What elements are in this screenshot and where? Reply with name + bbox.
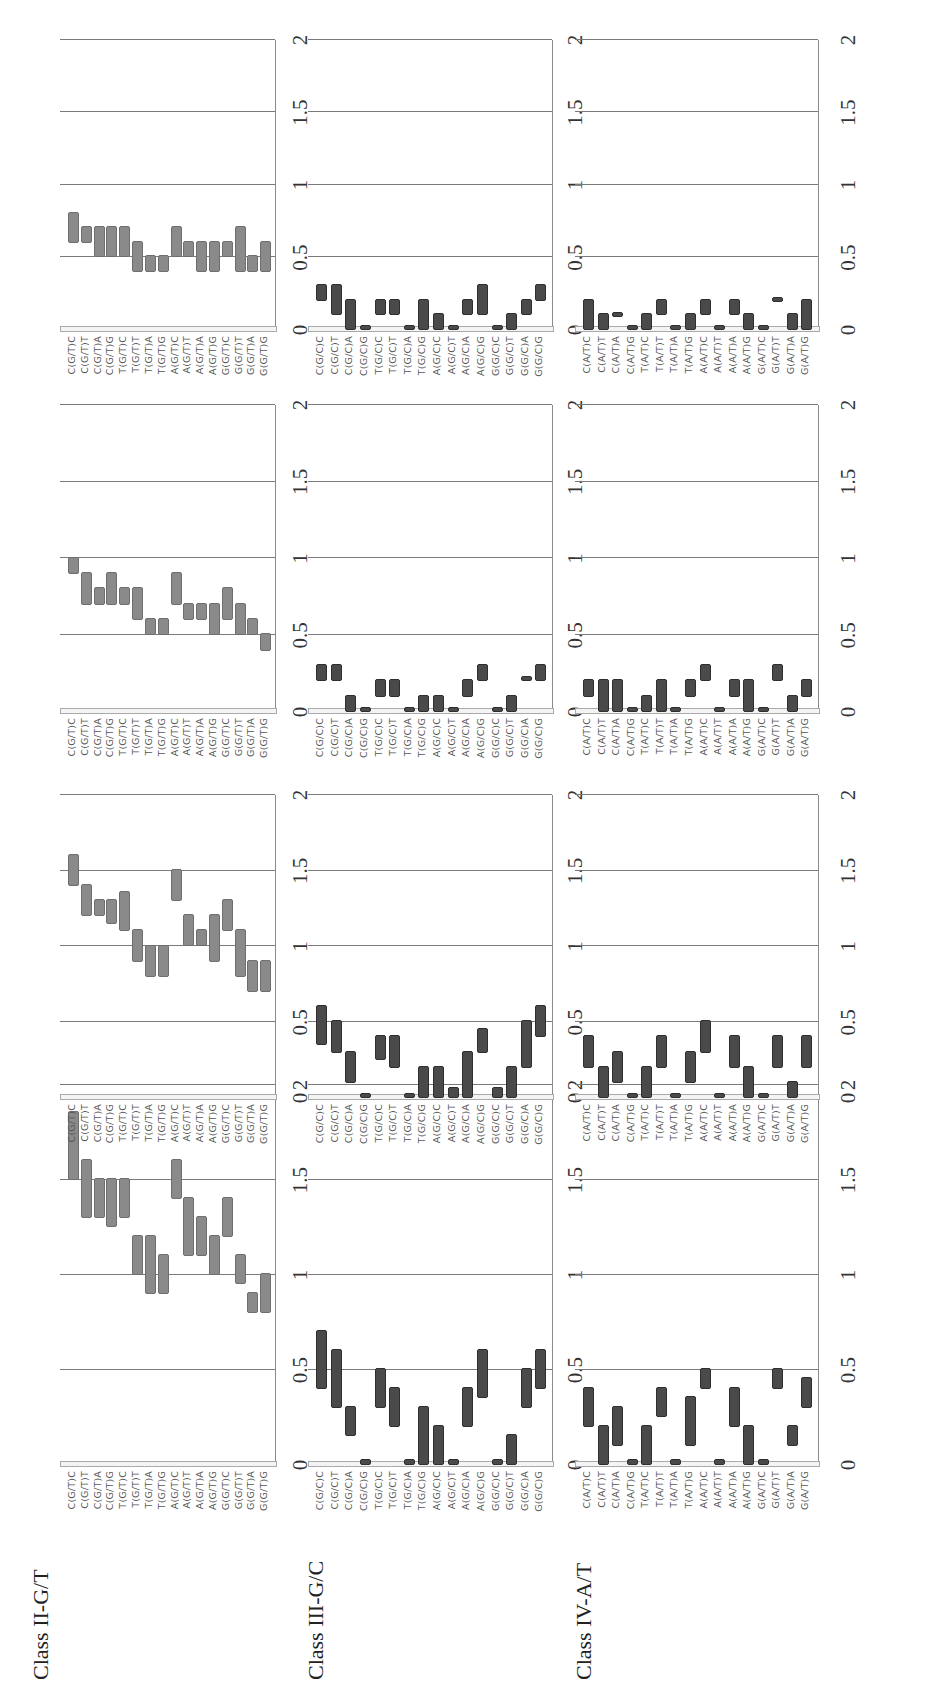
gridline bbox=[575, 794, 818, 795]
gridline bbox=[575, 1084, 818, 1085]
range-bar bbox=[158, 256, 169, 273]
range-bar bbox=[743, 1425, 754, 1465]
category-label: A(G/C)C bbox=[431, 1104, 442, 1160]
category-label: T(G/T)A bbox=[143, 1471, 154, 1527]
range-bar bbox=[612, 679, 623, 712]
category-label: A(G/T)C bbox=[169, 1471, 180, 1527]
range-bar bbox=[627, 325, 638, 330]
category-label: T(A/T)A bbox=[668, 718, 679, 774]
range-bar bbox=[316, 285, 327, 302]
category-label: C(A/T)C bbox=[581, 336, 592, 392]
category-label: T(A/T)C bbox=[639, 718, 650, 774]
range-bar bbox=[119, 587, 130, 604]
category-label: A(A/T)A bbox=[727, 336, 738, 392]
category-label: G(G/T)A bbox=[245, 336, 256, 392]
category-label: C(G/T)C bbox=[66, 718, 77, 774]
range-bar bbox=[535, 1349, 546, 1389]
range-bar bbox=[247, 618, 258, 635]
category-label: G(G/T)T bbox=[233, 336, 244, 392]
category-label: C(G/C)C bbox=[314, 336, 325, 392]
category-label: T(G/T)T bbox=[130, 1104, 141, 1160]
plot-frame bbox=[552, 405, 553, 712]
range-bar bbox=[772, 297, 783, 302]
gridline bbox=[308, 1369, 552, 1370]
category-label: G(A/T)T bbox=[770, 1104, 781, 1160]
range-bar bbox=[68, 854, 79, 886]
range-bar bbox=[260, 1273, 271, 1313]
range-bar bbox=[670, 1093, 681, 1098]
range-bar bbox=[389, 299, 400, 316]
axis-tick-label: 0.5 bbox=[288, 1357, 313, 1383]
axis-tick-label: 2 bbox=[836, 790, 861, 801]
range-bar bbox=[743, 314, 754, 331]
range-bar bbox=[132, 929, 143, 961]
figure-stage: Class II-G/T00.511.52C(G/T)CC(G/T)TC(G/T… bbox=[0, 0, 933, 1687]
rotated-figure: Class II-G/T00.511.52C(G/T)CC(G/T)TC(G/T… bbox=[0, 0, 933, 1687]
category-label: T(G/T)A bbox=[143, 336, 154, 392]
range-bar bbox=[119, 227, 130, 258]
range-bar bbox=[685, 1397, 696, 1447]
gridline bbox=[60, 1179, 275, 1180]
range-bar bbox=[119, 891, 130, 931]
category-label: T(G/T)G bbox=[156, 1471, 167, 1527]
gridline bbox=[575, 257, 818, 258]
category-label: C(G/C)C bbox=[314, 1471, 325, 1527]
category-label: C(G/T)A bbox=[92, 1104, 103, 1160]
range-bar bbox=[627, 707, 638, 712]
gridline bbox=[308, 1021, 552, 1022]
axis-tick-label: 0.5 bbox=[288, 1009, 313, 1035]
plot-frame bbox=[275, 40, 276, 330]
range-bar bbox=[158, 618, 169, 635]
category-label: G(A/T)A bbox=[785, 336, 796, 392]
gridline bbox=[60, 39, 275, 40]
category-label: A(G/T)G bbox=[207, 336, 218, 392]
range-bar bbox=[235, 1254, 246, 1285]
range-bar bbox=[106, 899, 117, 924]
category-label: C(G/C)T bbox=[329, 1471, 340, 1527]
category-label: A(G/T)G bbox=[207, 718, 218, 774]
category-label: A(G/C)A bbox=[460, 718, 471, 774]
gridline bbox=[575, 946, 818, 947]
axis-tick-label: 2 bbox=[288, 790, 313, 801]
range-bar bbox=[535, 1005, 546, 1037]
category-label: T(G/T)C bbox=[117, 718, 128, 774]
range-bar bbox=[183, 1197, 194, 1256]
category-label: A(G/C)A bbox=[460, 1104, 471, 1160]
range-bar bbox=[685, 1051, 696, 1083]
category-label: C(G/T)C bbox=[66, 1104, 77, 1160]
category-label: C(G/C)G bbox=[358, 336, 369, 392]
category-label: T(G/T)T bbox=[130, 718, 141, 774]
axis-tick-label: 0 bbox=[836, 1460, 861, 1471]
range-bar bbox=[316, 664, 327, 681]
category-label: C(G/T)A bbox=[92, 336, 103, 392]
category-label: C(G/T)G bbox=[104, 1471, 115, 1527]
axis-tick-label: 2 bbox=[288, 35, 313, 46]
category-label: T(G/C)C bbox=[373, 1104, 384, 1160]
range-bar bbox=[583, 679, 594, 696]
category-label: T(G/C)C bbox=[373, 1471, 384, 1527]
axis-tick-label: 1 bbox=[288, 553, 313, 564]
axis-tick-label: 0.5 bbox=[563, 622, 588, 648]
axis-tick-label: 2 bbox=[563, 790, 588, 801]
axis-tick-label: 0 bbox=[836, 1093, 861, 1104]
range-bar bbox=[758, 325, 769, 330]
range-bar bbox=[477, 285, 488, 316]
axis-tick-label: 2 bbox=[563, 400, 588, 411]
category-label: A(A/T)G bbox=[741, 718, 752, 774]
range-bar bbox=[714, 325, 725, 330]
range-bar bbox=[360, 707, 371, 712]
range-bar bbox=[375, 679, 386, 696]
category-label: G(G/C)G bbox=[533, 718, 544, 774]
category-label: A(A/T)G bbox=[741, 1471, 752, 1527]
category-label: C(G/C)G bbox=[358, 1104, 369, 1160]
axis-tick-label: 0.5 bbox=[836, 622, 861, 648]
category-label: T(A/T)A bbox=[668, 336, 679, 392]
category-label: A(G/C)T bbox=[446, 718, 457, 774]
category-label: G(G/T)C bbox=[220, 1104, 231, 1160]
gridline bbox=[60, 404, 275, 405]
range-bar bbox=[375, 1035, 386, 1060]
category-label: T(G/C)G bbox=[416, 1471, 427, 1527]
category-label: G(G/T)G bbox=[258, 1471, 269, 1527]
category-label: C(G/T)A bbox=[92, 1471, 103, 1527]
range-bar bbox=[598, 314, 609, 331]
